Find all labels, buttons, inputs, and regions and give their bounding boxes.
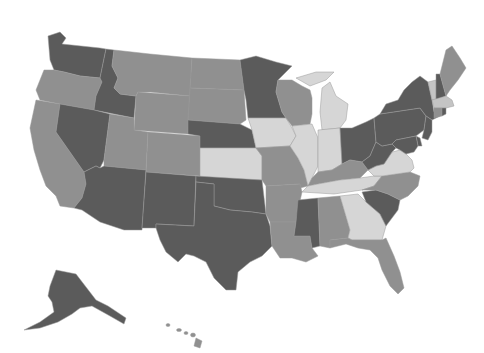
state-CT[interactable] bbox=[434, 108, 442, 118]
state-FL[interactable] bbox=[330, 238, 404, 294]
state-HI[interactable] bbox=[166, 324, 202, 349]
state-ME[interactable] bbox=[440, 46, 466, 96]
us-choropleth-map bbox=[0, 0, 484, 353]
state-KS[interactable] bbox=[200, 148, 262, 180]
state-WY[interactable] bbox=[134, 92, 190, 134]
state-CO[interactable] bbox=[146, 132, 200, 176]
state-IN[interactable] bbox=[318, 128, 342, 172]
state-IA[interactable] bbox=[248, 118, 296, 148]
state-AK[interactable] bbox=[24, 270, 126, 330]
state-NM[interactable] bbox=[142, 172, 196, 228]
state-RI[interactable] bbox=[442, 108, 446, 116]
state-ND[interactable] bbox=[190, 58, 244, 90]
state-AZ[interactable] bbox=[74, 166, 146, 230]
state-SD[interactable] bbox=[188, 88, 246, 124]
state-MT[interactable] bbox=[112, 50, 192, 96]
